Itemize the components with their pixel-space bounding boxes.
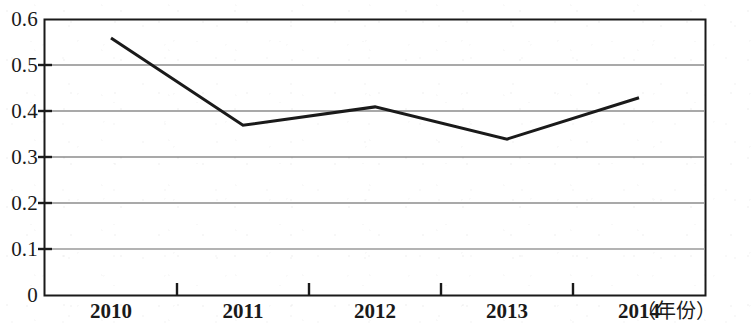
x-axis-unit-label: （年份）	[636, 300, 716, 323]
x-tick-label-2013: 2013	[486, 300, 528, 323]
x-tick-label-2010: 2010	[90, 300, 132, 323]
x-tick-label-2011: 2011	[223, 300, 264, 323]
x-tick-label-2012: 2012	[354, 300, 396, 323]
line-chart-figure: 0.6 0.5 0.4 0.3 0.2 0.1 0	[0, 0, 755, 327]
plot-area	[0, 0, 755, 327]
